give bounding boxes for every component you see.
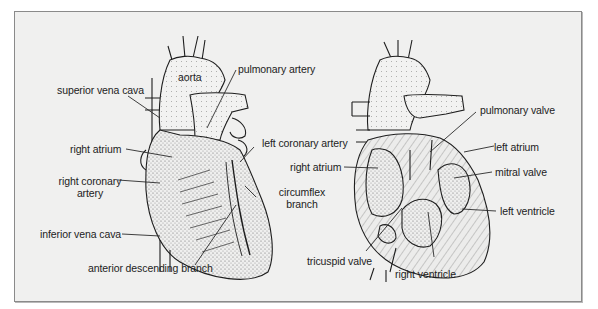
label-right-coronary-artery-line2: artery bbox=[58, 187, 122, 199]
label-right-atrium-exterior: right atrium bbox=[70, 143, 121, 155]
label-anterior-descending-branch: anterior descending branch bbox=[88, 262, 213, 274]
label-left-coronary-artery: left coronary artery bbox=[262, 137, 348, 149]
label-pulmonary-artery: pulmonary artery bbox=[238, 63, 315, 75]
label-mitral-valve: mitral valve bbox=[495, 166, 547, 178]
label-circumflex-branch-line1: circumflex bbox=[274, 186, 330, 198]
figure-caption-truncated bbox=[16, 303, 316, 309]
label-left-atrium: left atrium bbox=[494, 141, 539, 153]
label-superior-vena-cava: superior vena cava bbox=[57, 84, 144, 96]
label-tricuspid-valve: tricuspid valve bbox=[307, 255, 372, 267]
label-circumflex-branch-line2: branch bbox=[274, 198, 330, 210]
label-pulmonary-valve: pulmonary valve bbox=[480, 104, 555, 116]
label-right-atrium-interior: right atrium bbox=[290, 161, 341, 173]
label-aorta: aorta bbox=[178, 71, 201, 83]
label-inferior-vena-cava: inferior vena cava bbox=[40, 228, 121, 240]
interior-heart-drawing bbox=[352, 40, 490, 282]
label-right-ventricle: right ventricle bbox=[395, 268, 456, 280]
label-right-coronary-artery-line1: right coronary bbox=[58, 175, 122, 187]
label-left-ventricle: left ventricle bbox=[500, 205, 555, 217]
